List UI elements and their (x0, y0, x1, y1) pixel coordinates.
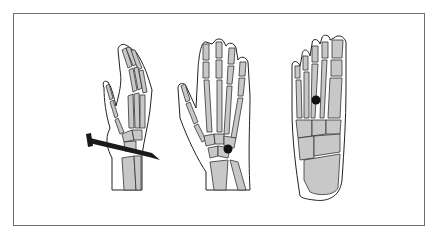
foot-figure (292, 35, 346, 200)
palmar-hand-figure (178, 39, 250, 190)
lateral-hand-figure (86, 44, 160, 190)
anatomy-illustration (0, 0, 438, 241)
marker-dot-icon (312, 96, 321, 105)
marker-dot-icon (224, 145, 233, 154)
